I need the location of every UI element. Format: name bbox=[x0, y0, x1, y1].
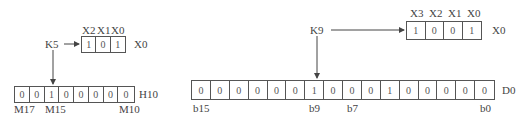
bit-label-m15: M15 bbox=[45, 104, 66, 115]
bit-cell: 0 bbox=[59, 87, 74, 102]
bit-label-x1: X1 bbox=[448, 8, 461, 19]
bit-cell: 0 bbox=[419, 81, 438, 99]
bit-label-b9: b9 bbox=[309, 103, 320, 114]
bit-cell: 0 bbox=[211, 81, 230, 99]
bit-cell: 0 bbox=[437, 81, 456, 99]
register-name-h10: H10 bbox=[139, 89, 158, 100]
bit-label-b15: b15 bbox=[193, 103, 210, 114]
constant-k5: K5 bbox=[45, 39, 58, 50]
bit-cell: 0 bbox=[96, 37, 110, 52]
bit-label-m17: M17 bbox=[14, 104, 35, 115]
output-register-m: 0 0 1 0 0 0 0 0 bbox=[14, 86, 135, 103]
bit-cell: 0 bbox=[444, 22, 463, 39]
output-register-d0: 0 0 0 0 0 0 1 0 0 0 1 0 0 0 0 0 bbox=[191, 80, 495, 100]
bit-label-b7: b7 bbox=[347, 103, 358, 114]
bit-cell: 1 bbox=[45, 87, 60, 102]
bit-label-b0: b0 bbox=[480, 103, 491, 114]
bit-cell: 0 bbox=[456, 81, 475, 99]
input-register-x-left: 1 0 1 bbox=[81, 36, 126, 53]
bit-cell: 0 bbox=[30, 87, 45, 102]
bit-cell: 0 bbox=[249, 81, 268, 99]
bit-cell: 1 bbox=[305, 81, 324, 99]
bit-label-x0: X0 bbox=[111, 25, 124, 36]
bit-cell: 0 bbox=[286, 81, 305, 99]
bit-cell: 0 bbox=[15, 87, 30, 102]
bit-cell: 0 bbox=[324, 81, 343, 99]
bit-label-m10: M10 bbox=[119, 104, 140, 115]
bit-cell: 0 bbox=[230, 81, 249, 99]
bit-cell: 1 bbox=[82, 37, 96, 52]
bit-cell: 0 bbox=[362, 81, 381, 99]
bit-cell: 1 bbox=[111, 37, 125, 52]
bit-cell: 0 bbox=[74, 87, 89, 102]
bit-label-x0: X0 bbox=[467, 8, 480, 19]
bit-label-x3: X3 bbox=[410, 8, 423, 19]
bit-cell: 1 bbox=[463, 22, 481, 39]
bit-cell: 0 bbox=[192, 81, 211, 99]
constant-k9: K9 bbox=[310, 25, 323, 36]
bit-cell: 0 bbox=[426, 22, 445, 39]
bit-label-x2: X2 bbox=[82, 25, 95, 36]
bit-label-x2: X2 bbox=[429, 8, 442, 19]
bit-cell: 0 bbox=[118, 87, 134, 102]
bit-cell: 0 bbox=[89, 87, 104, 102]
bit-cell: 0 bbox=[475, 81, 494, 99]
register-name-x0-right: X0 bbox=[492, 25, 505, 36]
bit-cell: 0 bbox=[104, 87, 119, 102]
register-name-d0: D0 bbox=[502, 85, 515, 96]
bit-cell: 0 bbox=[400, 81, 419, 99]
bit-cell: 1 bbox=[381, 81, 400, 99]
register-name-x0-left: X0 bbox=[134, 39, 147, 50]
bit-cell: 0 bbox=[343, 81, 362, 99]
bit-cell: 1 bbox=[407, 22, 426, 39]
input-register-x-right: 1 0 0 1 bbox=[406, 21, 482, 40]
bit-cell: 0 bbox=[268, 81, 287, 99]
bit-label-x1: X1 bbox=[97, 25, 110, 36]
